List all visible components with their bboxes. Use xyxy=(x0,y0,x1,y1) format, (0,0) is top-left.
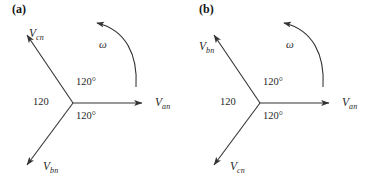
phasor-subscript: an xyxy=(162,102,170,111)
phasor-label-vcn: Vcn xyxy=(230,160,245,174)
phasor-symbol: V xyxy=(155,96,162,108)
panel-a: (a) Vcn Vbn xyxy=(0,0,186,188)
angle-label-top: 120° xyxy=(263,76,283,88)
phasor-label-vbn: Vbn xyxy=(43,160,58,174)
angle-label-left: 120 xyxy=(220,96,236,108)
phasor-vbn-vector xyxy=(27,103,73,165)
panel-b-vector-graphic xyxy=(187,0,373,188)
phasor-subscript: an xyxy=(349,102,357,111)
rotation-arc xyxy=(97,23,136,87)
omega-label: ω xyxy=(286,38,294,50)
phasor-label-vbn: Vbn xyxy=(199,40,214,54)
phasor-symbol: V xyxy=(230,160,237,172)
phasor-diagram-figure: (a) Vcn Vbn xyxy=(0,0,373,188)
phasor-vbn-vector xyxy=(214,35,260,103)
omega-label: ω xyxy=(99,38,107,50)
panel-b: (b) Vbn Vcn xyxy=(187,0,373,188)
phasor-subscript: cn xyxy=(237,166,245,175)
phasor-vcn-vector xyxy=(214,103,260,165)
phasor-label-vcn: Vcn xyxy=(29,27,44,41)
phasor-subscript: cn xyxy=(36,33,44,42)
phasor-symbol: V xyxy=(43,160,50,172)
rotation-arc xyxy=(284,23,323,87)
phasor-symbol: V xyxy=(199,40,206,52)
panel-a-vector-graphic xyxy=(0,0,186,188)
angle-label-top: 120° xyxy=(76,76,96,88)
phasor-symbol: V xyxy=(342,96,349,108)
phasor-vcn-vector xyxy=(27,35,73,103)
phasor-subscript: bn xyxy=(206,46,214,55)
angle-label-bottom: 120° xyxy=(263,110,283,122)
phasor-label-van: Van xyxy=(155,96,170,110)
phasor-subscript: bn xyxy=(50,166,58,175)
angle-label-left: 120 xyxy=(33,96,49,108)
phasor-label-van: Van xyxy=(342,96,357,110)
angle-label-bottom: 120° xyxy=(76,110,96,122)
phasor-symbol: V xyxy=(29,27,36,39)
